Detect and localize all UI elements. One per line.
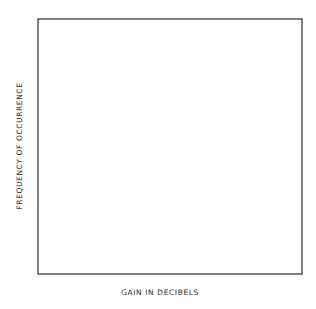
histogram-chart: FREQUENCY OF OCCURRENCE GAIN IN DECIBELS: [0, 0, 316, 309]
plot-frame: [38, 19, 302, 274]
x-axis-title: GAIN IN DECIBELS: [121, 288, 199, 297]
y-axis-title: FREQUENCY OF OCCURRENCE: [15, 82, 24, 209]
